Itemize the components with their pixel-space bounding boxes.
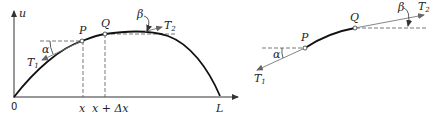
t1-label: T1 xyxy=(27,56,39,70)
beta-arc xyxy=(144,16,149,31)
p-label-right: P xyxy=(300,31,309,44)
beta-arc-right xyxy=(404,8,409,26)
t1-label-right: T1 xyxy=(254,72,266,86)
string-curve xyxy=(14,32,220,97)
string-segment xyxy=(305,28,355,48)
t2-label-right: T2 xyxy=(418,0,430,14)
x-plus-dx-tick-label: x + Δx xyxy=(92,102,129,115)
point-p-right xyxy=(303,46,307,50)
t2-arrow-right xyxy=(355,15,424,28)
beta-label-right: β xyxy=(397,1,404,14)
string-tension-diagram: u 0 x x + Δx L P Q α β T1 T2 P Q α β T1 … xyxy=(0,0,436,117)
alpha-label: α xyxy=(42,43,50,56)
alpha-arc xyxy=(50,41,53,54)
t1-arrow-right xyxy=(257,48,305,70)
q-label: Q xyxy=(101,17,110,30)
t2-label: T2 xyxy=(164,19,176,33)
alpha-arc-right xyxy=(282,48,283,58)
p-label: P xyxy=(78,24,87,37)
l-label: L xyxy=(215,102,223,115)
point-q xyxy=(103,32,107,36)
point-q-right xyxy=(353,26,357,30)
right-panel: P Q α β T1 T2 xyxy=(254,0,430,86)
point-p xyxy=(80,39,84,43)
alpha-label-right: α xyxy=(273,48,281,61)
origin-label: 0 xyxy=(11,101,17,112)
u-axis-label: u xyxy=(19,7,26,20)
beta-label: β xyxy=(136,8,143,21)
left-panel: u 0 x x + Δx L P Q α β T1 T2 xyxy=(11,7,238,115)
q-label-right: Q xyxy=(350,11,359,24)
x-tick-label: x xyxy=(79,102,86,115)
